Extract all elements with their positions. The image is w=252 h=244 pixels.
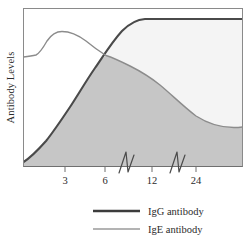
x-tick-label-3: 3 — [62, 175, 67, 186]
legend-item-igg[interactable]: IgG antibody — [92, 203, 212, 218]
legend-item-ige[interactable]: IgE antibody — [92, 221, 212, 236]
legend-label-igg: IgG antibody — [148, 206, 204, 217]
chart-canvas: 3 6 12 24 IgG antibody IgE antibody — [0, 0, 252, 244]
x-tick-label-6: 6 — [102, 175, 107, 186]
x-tick-label-12: 12 — [147, 175, 158, 186]
antibody-levels-figure: Antibody Levels — [0, 0, 252, 244]
legend-label-ige: IgE antibody — [148, 224, 203, 235]
x-tick-label-24: 24 — [191, 175, 202, 186]
chart-legend: IgG antibody IgE antibody — [92, 203, 212, 236]
